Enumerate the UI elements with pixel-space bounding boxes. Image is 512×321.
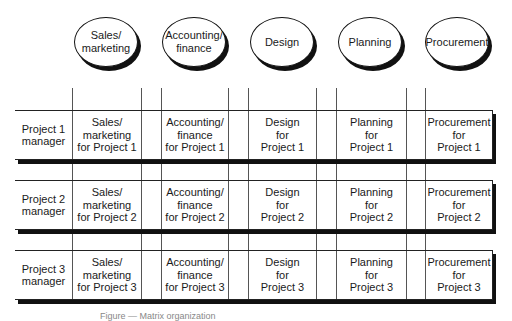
matrix-cell: Sales/ marketing for Project 3 bbox=[73, 251, 141, 299]
department-planning: Planning bbox=[338, 17, 402, 67]
matrix-cell: Accounting/ finance for Project 3 bbox=[162, 251, 228, 299]
department-design: Design bbox=[250, 17, 314, 67]
matrix-cell: Planning for Project 3 bbox=[337, 251, 406, 299]
matrix-cell: Design for Project 1 bbox=[249, 111, 316, 159]
matrix-cell: Planning for Project 2 bbox=[337, 181, 406, 229]
matrix-cell: Procurement for Project 1 bbox=[426, 111, 492, 159]
matrix-cell: Sales/ marketing for Project 2 bbox=[73, 181, 141, 229]
department-sales-marketing: Sales/ marketing bbox=[74, 17, 138, 67]
project-1-manager: Project 1 manager bbox=[15, 111, 72, 159]
matrix-cell: Accounting/ finance for Project 1 bbox=[162, 111, 228, 159]
project-3-manager: Project 3 manager bbox=[15, 251, 72, 299]
figure-caption: Figure — Matrix organization bbox=[100, 311, 420, 321]
matrix-cell: Procurement for Project 3 bbox=[426, 251, 492, 299]
matrix-cell: Accounting/ finance for Project 2 bbox=[162, 181, 228, 229]
matrix-cell: Sales/ marketing for Project 1 bbox=[73, 111, 141, 159]
matrix-cell: Design for Project 2 bbox=[249, 181, 316, 229]
matrix-cell: Planning for Project 1 bbox=[337, 111, 406, 159]
matrix-cell: Procurement for Project 2 bbox=[426, 181, 492, 229]
project-2-manager: Project 2 manager bbox=[15, 181, 72, 229]
matrix-cell: Design for Project 3 bbox=[249, 251, 316, 299]
department-procurement: Procurement bbox=[425, 17, 489, 67]
department-accounting-finance: Accounting/ finance bbox=[162, 17, 226, 67]
